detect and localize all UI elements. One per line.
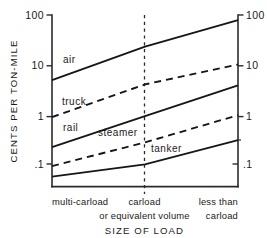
series-label-tanker: tanker (151, 143, 182, 154)
y-axis-right-labels: 100 10 1 .1 (243, 9, 265, 170)
series-labels: air truck rail steamer tanker (62, 54, 182, 154)
y-axis-title: CENTS PER TON-MILE (8, 40, 19, 163)
x-label-carload: carload (128, 196, 160, 207)
y-tick-right-label-10: 10 (246, 59, 258, 71)
transport-cost-line-chart: 100 10 1 .1 100 10 1 .1 (0, 0, 267, 238)
y-tick-label-point1: .1 (34, 158, 44, 170)
y-tick-label-1: 1 (38, 110, 44, 122)
x-axis-title: SIZE OF LOAD (105, 225, 184, 236)
y-tick-label-10: 10 (32, 59, 44, 71)
chart-figure: 100 10 1 .1 100 10 1 .1 (0, 0, 267, 238)
y-axis-left-labels: 100 10 1 .1 (25, 9, 44, 170)
x-axis-category-labels: multi-carload carload or equivalent volu… (52, 196, 238, 221)
x-label-less-than: less than (199, 196, 238, 207)
y-tick-label-100: 100 (25, 9, 44, 21)
y-tick-right-label-100: 100 (246, 9, 265, 21)
series-label-steamer: steamer (98, 127, 138, 138)
y-tick-right-label-point1: .1 (243, 158, 253, 170)
x-label-multi-carload: multi-carload (52, 196, 108, 207)
series-label-truck: truck (62, 96, 87, 107)
x-label-less-than-carload: carload (206, 210, 238, 221)
series-label-rail: rail (63, 122, 78, 133)
x-label-equivalent-volume: or equivalent volume (99, 210, 190, 221)
y-tick-right-label-1: 1 (246, 110, 252, 122)
y-axis-left-ticks (47, 15, 53, 164)
series-label-air: air (63, 54, 76, 65)
